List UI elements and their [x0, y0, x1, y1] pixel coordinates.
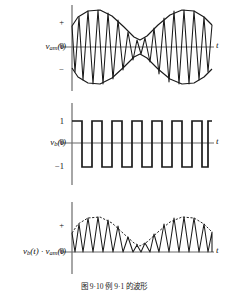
product-signal-plot: [0, 190, 228, 290]
am-tick-minus: −: [48, 64, 64, 74]
prod-label-arg: (t) · v: [30, 246, 49, 256]
square-wave: [72, 121, 212, 167]
prod-x-axis-label: t: [216, 245, 219, 255]
upper-envelope: [72, 10, 212, 40]
am-tick-plus: +: [48, 17, 64, 27]
figure-caption-text: 图 9·10 例 9·1 的波形: [81, 282, 147, 291]
vb-tick-minus-one: −1: [42, 161, 64, 171]
am-tick-zero: 0: [48, 41, 64, 51]
prod-tick-plus: +: [48, 220, 64, 230]
am-x-axis-label: t: [216, 40, 219, 50]
vb-tick-zero: 0: [48, 137, 64, 147]
figure-caption: 图 9·10 例 9·1 的波形: [0, 280, 228, 291]
prod-tick-zero: 0: [48, 246, 64, 256]
panel-product-signal: vb(t) · vam(t) + 0 t: [0, 190, 228, 290]
panel-switching-signal: vb(t) 1 0 −1 t: [0, 95, 228, 190]
rectified-waveform: [72, 217, 212, 252]
vb-x-axis-label: t: [216, 136, 219, 146]
panel-am-signal: vam(t) + 0 − t: [0, 0, 228, 95]
vb-tick-one: 1: [48, 116, 64, 126]
